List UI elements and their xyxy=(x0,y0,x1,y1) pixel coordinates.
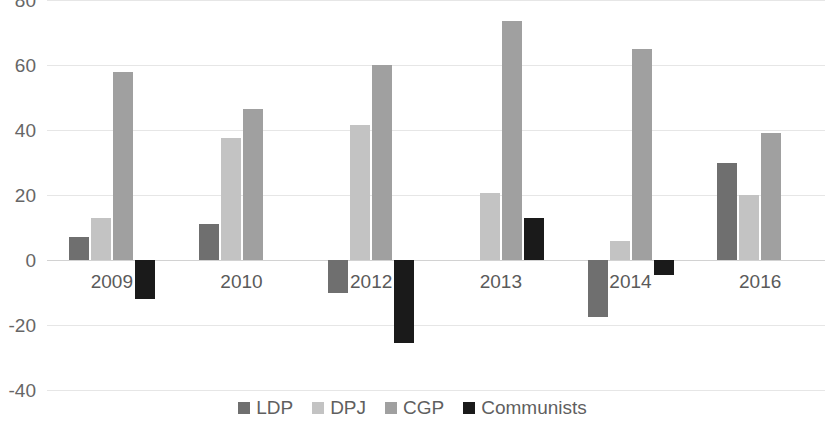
legend-label-cgp: CGP xyxy=(403,398,444,417)
bar-dpj-2013 xyxy=(480,193,500,260)
legend-item-communists[interactable]: Communists xyxy=(463,398,587,417)
bar-cgp-2014 xyxy=(632,49,652,260)
y-axis-label--20: -20 xyxy=(0,316,36,335)
y-axis-label-60: 60 xyxy=(0,56,36,75)
y-axis-label-80: 80 xyxy=(0,0,36,10)
legend-swatch-ldp xyxy=(238,402,250,414)
x-axis-label-2014: 2014 xyxy=(566,272,696,291)
legend-item-dpj[interactable]: DPJ xyxy=(312,398,366,417)
gridline-60 xyxy=(47,65,825,66)
gridline-20 xyxy=(47,195,825,196)
bar-cgp-2016 xyxy=(761,133,781,260)
bar-cgp-2013 xyxy=(502,21,522,260)
bar-ldp-2009 xyxy=(69,237,89,260)
bar-dpj-2014 xyxy=(610,241,630,261)
bar-dpj-2010 xyxy=(221,138,241,260)
y-axis-label-0: 0 xyxy=(0,251,36,270)
bar-dpj-2012 xyxy=(350,125,370,260)
y-axis-label-40: 40 xyxy=(0,121,36,140)
bar-cgp-2012 xyxy=(372,65,392,260)
y-axis-label-20: 20 xyxy=(0,186,36,205)
gridline--40 xyxy=(47,390,825,391)
legend-swatch-communists xyxy=(463,402,475,414)
bar-cgp-2010 xyxy=(243,109,263,260)
x-axis-label-2016: 2016 xyxy=(695,272,825,291)
plot-area xyxy=(47,0,825,390)
bar-communists-2013 xyxy=(524,218,544,260)
legend-swatch-dpj xyxy=(312,402,324,414)
bar-ldp-2016 xyxy=(717,163,737,261)
x-axis-label-2009: 2009 xyxy=(47,272,177,291)
legend-label-dpj: DPJ xyxy=(330,398,366,417)
legend-label-communists: Communists xyxy=(481,398,587,417)
chart-legend: LDPDPJCGPCommunists xyxy=(0,398,825,417)
bar-ldp-2010 xyxy=(199,224,219,260)
legend-item-cgp[interactable]: CGP xyxy=(385,398,444,417)
gridline-40 xyxy=(47,130,825,131)
bar-cgp-2009 xyxy=(113,72,133,261)
bar-dpj-2016 xyxy=(739,195,759,260)
gridline--20 xyxy=(47,325,825,326)
x-axis-label-2012: 2012 xyxy=(306,272,436,291)
bar-chart: 806040200-20-40 200920102012201320142016… xyxy=(0,0,825,426)
gridline-80 xyxy=(47,0,825,1)
legend-item-ldp[interactable]: LDP xyxy=(238,398,293,417)
legend-swatch-cgp xyxy=(385,402,397,414)
x-axis-label-2013: 2013 xyxy=(436,272,566,291)
bar-dpj-2009 xyxy=(91,218,111,260)
legend-label-ldp: LDP xyxy=(256,398,293,417)
gridline-0 xyxy=(47,260,825,261)
x-axis-label-2010: 2010 xyxy=(177,272,307,291)
